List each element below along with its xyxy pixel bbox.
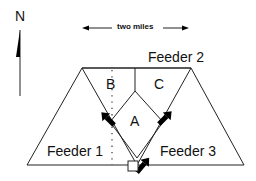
feeder-3-label: Feeder 3 xyxy=(160,144,216,158)
feeder-1-label: Feeder 1 xyxy=(47,144,103,158)
zone-a-label: A xyxy=(130,114,139,128)
north-arrow-icon xyxy=(16,30,20,96)
arrow-to-feeder-3-icon xyxy=(155,107,176,128)
feeder-2-label: Feeder 2 xyxy=(148,50,204,64)
outlet-square-icon xyxy=(128,161,138,171)
north-label: N xyxy=(15,9,25,23)
scale-label: two miles xyxy=(117,23,153,31)
zone-c-label: C xyxy=(154,77,164,91)
zone-b-label: B xyxy=(106,77,115,91)
